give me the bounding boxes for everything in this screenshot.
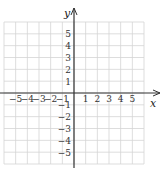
- y-tick-label: 1: [65, 77, 71, 87]
- y-tick-label: 3: [65, 53, 71, 63]
- y-tick-label: 5: [65, 29, 71, 39]
- y-tick-label: 2: [65, 65, 71, 75]
- axes: x y: [0, 7, 160, 168]
- y-tick-label: −4: [58, 136, 72, 146]
- coordinate-grid: x y −5−4−3−2−11234554321−1−2−3−4−5: [0, 0, 166, 179]
- x-axis-label: x: [150, 97, 157, 110]
- x-tick-label: 3: [106, 94, 112, 104]
- y-axis-label: y: [63, 7, 71, 20]
- y-tick-label: −2: [58, 112, 71, 122]
- x-tick-label: 4: [118, 94, 124, 104]
- y-tick-label: −1: [58, 100, 71, 110]
- x-tick-label: 1: [83, 94, 89, 104]
- y-tick-label: −3: [58, 124, 72, 134]
- x-tick-label: 2: [94, 94, 100, 104]
- y-tick-label: 4: [65, 41, 71, 51]
- x-tick-label: 5: [129, 94, 135, 104]
- y-tick-label: −5: [58, 148, 72, 158]
